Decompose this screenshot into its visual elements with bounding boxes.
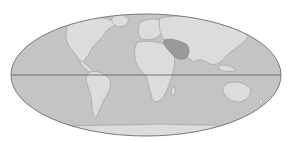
new-zealand [259, 99, 263, 105]
world-map-svg [0, 0, 302, 142]
madagascar [171, 87, 175, 95]
world-map [0, 0, 302, 142]
